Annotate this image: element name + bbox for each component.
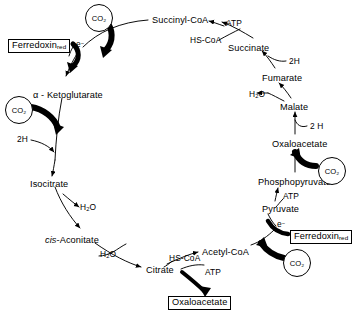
ferredoxin-red-box-left: Ferredoxinred xyxy=(8,39,70,53)
head-co2-bottom xyxy=(256,237,268,248)
metabolite-succinate: Succinate xyxy=(228,44,269,53)
ferredoxin-left-text: Ferredoxin xyxy=(12,40,57,50)
ferredoxin-right-subscript: red xyxy=(339,234,348,241)
cofactor-hscoa-succinyl: HS-CoA xyxy=(190,36,221,44)
metabolite-alpha-ketoglutarate: α - Ketoglutarate xyxy=(33,91,103,100)
ferredoxin-red-box-right: Ferredoxinred xyxy=(290,230,352,244)
cofactor-electron-ketoglutarate: e− xyxy=(76,40,84,48)
metabolite-succinyl-coa: Succinyl-CoA xyxy=(152,16,208,25)
metabolite-acetyl-coa: Acetyl-CoA xyxy=(202,248,249,257)
cofactor-atp-citrate: ATP xyxy=(205,268,221,276)
cofactor-h2o-malate: H2O xyxy=(249,90,265,100)
cofactor-hscoa-citrate: HS-CoA xyxy=(169,254,200,262)
metabolite-malate: Malate xyxy=(280,103,308,112)
cofactor-atp-pep: ATP xyxy=(283,192,299,200)
co2-node-left: CO₂ xyxy=(5,96,33,124)
metabolite-citrate: Citrate xyxy=(146,266,174,275)
metabolite-pyruvate: Pyruvate xyxy=(262,205,299,214)
co2-node-top: CO₂ xyxy=(85,4,113,32)
cofactor-2h-fumarate: 2H xyxy=(289,57,300,65)
cofactor-2h-malate: 2 H xyxy=(310,122,323,130)
ferredoxin-left-subscript: red xyxy=(57,43,66,50)
metabolite-fumarate: Fumarate xyxy=(262,74,302,83)
metabolite-oxaloacetate: Oxaloacetate xyxy=(272,140,327,149)
oxaloacetate-product-box: Oxaloacetate xyxy=(168,296,231,310)
cofactor-h2o-isocitrate: H2O xyxy=(80,203,96,213)
metabolite-isocitrate: Isocitrate xyxy=(30,180,68,189)
co2-node-right: CO₂ xyxy=(318,157,346,185)
co2-node-bottom: CO₂ xyxy=(283,249,311,277)
metabolite-cis-aconitate: cis-Aconitate xyxy=(45,236,99,245)
ferredoxin-right-text: Ferredoxin xyxy=(294,231,339,241)
cis-prefix: cis xyxy=(45,235,57,245)
cofactor-2h-isocitrate: 2H xyxy=(17,135,28,143)
cofactor-electron-pyruvate: e− xyxy=(277,220,285,228)
cofactor-h2o-aconitate: H2O xyxy=(100,250,116,260)
aconitate-name: Aconitate xyxy=(60,235,99,245)
reductive-tca-cycle-diagram: Succinyl-CoA Succinate Fumarate Malate O… xyxy=(0,0,361,316)
cofactor-atp-succinyl: ATP xyxy=(226,19,242,27)
